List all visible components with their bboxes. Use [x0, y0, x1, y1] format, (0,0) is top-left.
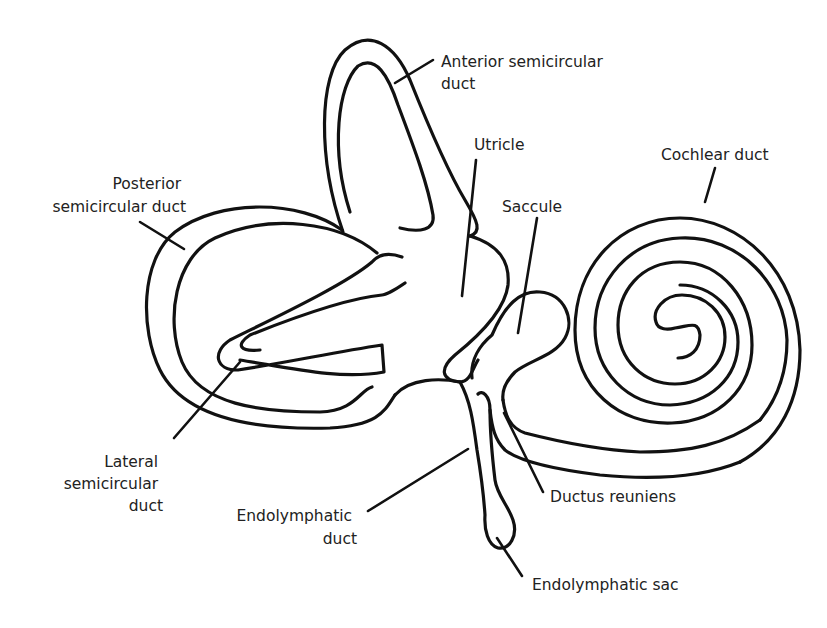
- label-saccule: Saccule: [502, 198, 562, 216]
- lateral-semicircular-duct: [218, 255, 405, 375]
- label-endolymphatic-sac: Endolymphatic sac: [532, 576, 679, 594]
- label-endolymphatic-duct: Endolymphatic duct: [236, 507, 357, 548]
- label-ductus-reuniens: Ductus reuniens: [550, 488, 676, 506]
- label-cochlear-duct: Cochlear duct: [661, 146, 769, 164]
- cochlear-duct-spiral: [575, 218, 800, 462]
- label-anterior-semicircular-duct: Anterior semicircular duct: [441, 53, 608, 93]
- endolymphatic-duct-and-sac: [460, 382, 515, 548]
- leader-utricle: [462, 160, 476, 296]
- leader-cochlear: [705, 168, 715, 202]
- label-posterior-semicircular-duct: Posterior semicircular duct: [52, 175, 186, 216]
- saccule: [472, 292, 569, 400]
- label-utricle: Utricle: [474, 136, 524, 154]
- leader-endolymphatic-duct: [368, 449, 468, 511]
- inner-ear-diagram: Anterior semicircular duct Utricle Cochl…: [0, 0, 827, 628]
- label-lateral-semicircular-duct: Lateral semicircular duct: [64, 453, 163, 515]
- leader-saccule: [518, 218, 537, 333]
- posterior-semicircular-duct: [146, 207, 395, 428]
- utricle: [395, 236, 508, 395]
